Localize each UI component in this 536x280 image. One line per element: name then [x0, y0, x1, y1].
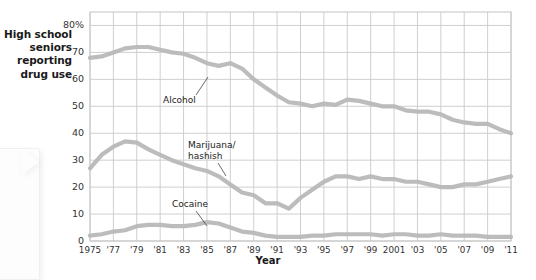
annotation-marijuana-line1: Marijuana/	[188, 140, 236, 150]
y-tick-label: 50	[42, 100, 84, 111]
annotation-marijuana-line2: hashish	[188, 151, 223, 161]
x-axis-title: Year	[0, 255, 536, 266]
y-tick-label: 40	[42, 127, 84, 138]
decorative-callout-tip	[22, 150, 39, 174]
y-tick-label: 60	[42, 73, 84, 84]
annotation-alcohol: Alcohol	[163, 95, 196, 105]
x-tick-label: '11	[494, 245, 528, 255]
annotation-cocaine: Cocaine	[172, 199, 208, 209]
y-tick-label: 80%	[42, 19, 84, 30]
y-tick-label: 20	[42, 181, 84, 192]
y-tick-label: 30	[42, 154, 84, 165]
y-tick-label: 10	[42, 208, 84, 219]
y-tick-label: 70	[42, 46, 84, 57]
